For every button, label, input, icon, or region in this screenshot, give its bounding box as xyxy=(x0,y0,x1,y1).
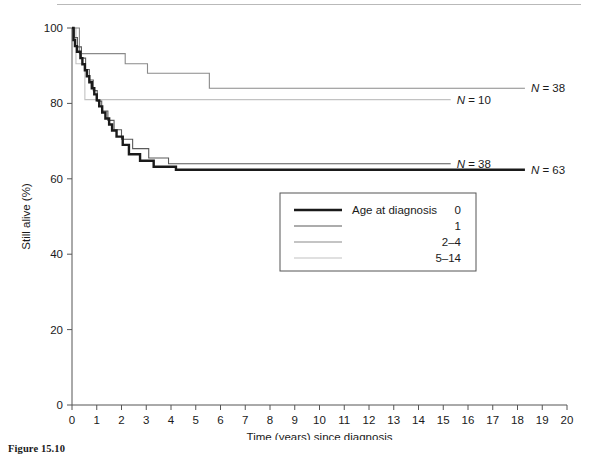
y-axis-title: Still alive (%) xyxy=(20,183,32,250)
x-tick-label: 16 xyxy=(462,414,475,426)
y-tick-label: 40 xyxy=(50,248,63,260)
x-tick-label: 5 xyxy=(193,414,199,426)
x-tick-label: 17 xyxy=(486,414,499,426)
n-annotation: N = 38 xyxy=(457,158,491,170)
x-tick-label: 13 xyxy=(387,414,400,426)
legend-label-3: 5–14 xyxy=(435,252,461,264)
x-tick-label: 4 xyxy=(168,414,175,426)
x-axis-title: Time (years) since diagnosis xyxy=(247,431,393,440)
x-tick-label: 19 xyxy=(536,414,549,426)
x-tick-label: 20 xyxy=(561,414,574,426)
x-tick-label: 15 xyxy=(437,414,450,426)
survival-curve-chart: 0204060801000123456789101112131415161718… xyxy=(0,0,598,440)
n-annotation: N = 38 xyxy=(531,82,565,94)
legend-label-2: 2–4 xyxy=(442,236,462,248)
y-tick-label: 100 xyxy=(44,22,63,34)
y-tick-label: 60 xyxy=(50,173,63,185)
x-tick-label: 7 xyxy=(242,414,248,426)
x-tick-label: 18 xyxy=(511,414,524,426)
y-tick-label: 20 xyxy=(50,324,63,336)
legend-label-1: 1 xyxy=(455,220,461,232)
x-tick-label: 9 xyxy=(292,414,298,426)
series-line-24 xyxy=(72,28,525,88)
x-tick-label: 3 xyxy=(143,414,149,426)
x-tick-label: 1 xyxy=(94,414,100,426)
n-annotation: N = 10 xyxy=(457,94,491,106)
y-tick-label: 0 xyxy=(57,399,63,411)
x-tick-label: 8 xyxy=(267,414,273,426)
x-tick-label: 11 xyxy=(338,414,350,426)
x-tick-label: 6 xyxy=(217,414,223,426)
legend-title: Age at diagnosis xyxy=(352,204,437,216)
legend-label-0: 0 xyxy=(455,204,461,216)
y-tick-label: 80 xyxy=(50,97,63,109)
x-tick-label: 10 xyxy=(313,414,326,426)
n-annotations-group: N = 38N = 10N = 38N = 63 xyxy=(457,82,565,176)
x-tick-label: 12 xyxy=(363,414,376,426)
x-tick-label: 2 xyxy=(118,414,124,426)
figure-caption: Figure 15.10 xyxy=(8,443,65,454)
series-line-1 xyxy=(72,28,451,164)
chart-legend: 012–45–14Age at diagnosis xyxy=(280,193,476,271)
x-tick-label: 0 xyxy=(69,414,75,426)
x-tick-label: 14 xyxy=(412,414,425,426)
n-annotation: N = 63 xyxy=(531,164,565,176)
figure-root: 0204060801000123456789101112131415161718… xyxy=(0,0,598,468)
